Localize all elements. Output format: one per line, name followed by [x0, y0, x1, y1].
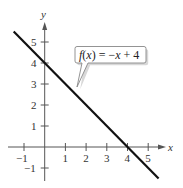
x-tick-label: 3 — [104, 152, 110, 164]
y-tick-label: 4 — [31, 57, 37, 69]
y-tick-label: 3 — [31, 78, 37, 90]
function-callout: f(x) = −x + 4 — [75, 47, 148, 90]
x-tick-label: 1 — [63, 152, 69, 164]
y-tick-label: 5 — [31, 36, 37, 48]
y-tick-label: 1 — [31, 120, 37, 132]
x-tick-label: 2 — [83, 152, 89, 164]
y-axis-label: y — [40, 8, 46, 20]
x-tick-label: 4 — [125, 152, 131, 164]
y-axis-arrow-icon — [42, 22, 47, 30]
y-tick-label: −1 — [24, 162, 36, 174]
x-axis-label: x — [167, 141, 173, 153]
x-axis-arrow-icon — [158, 145, 166, 150]
y-tick-label: 2 — [31, 99, 37, 111]
function-graph: x −1 1 2 3 4 5 y 5 4 3 2 1 −1 — [0, 0, 183, 188]
callout-label: f(x) = −x + 4 — [79, 48, 139, 62]
x-tick-label: 5 — [145, 152, 151, 164]
